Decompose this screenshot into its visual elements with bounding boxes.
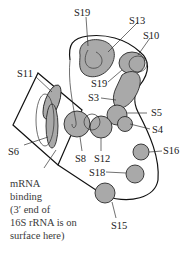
ribosome-diagram: S19 S13 S10 S11 S19 S3 S5 S4 S6 S8 S12 S… [0,0,187,254]
label-S15: S15 [111,220,127,231]
protein-S6-blob [46,104,58,148]
protein-S18-blob [126,165,144,183]
label-S5: S5 [151,107,162,118]
caption-line-2: binding [10,191,43,202]
protein-S15-blob [95,183,115,203]
label-S13: S13 [129,15,145,26]
label-S19-top: S19 [74,7,90,18]
label-S8: S8 [75,153,86,164]
protein-S8-blob [64,111,90,137]
caption-line-1: mRNA [10,178,41,189]
label-S18: S18 [89,167,105,178]
caption-line-4: 16S rRNA is on [10,217,78,228]
label-S3: S3 [88,92,99,103]
protein-S3-blob [113,72,140,108]
label-S12: S12 [94,153,110,164]
label-S10: S10 [143,30,159,41]
protein-S10-blob [119,52,145,74]
label-S19-lower: S19 [91,78,107,89]
protein-S16-blob [133,144,149,160]
label-S6: S6 [8,146,19,157]
label-S4: S4 [152,124,164,135]
label-S16: S16 [163,145,179,156]
label-S11: S11 [17,68,33,79]
caption-line-3: (3′ end of [10,204,51,216]
protein-S12-blob [90,116,112,138]
caption-line-5: surface here) [10,230,65,242]
